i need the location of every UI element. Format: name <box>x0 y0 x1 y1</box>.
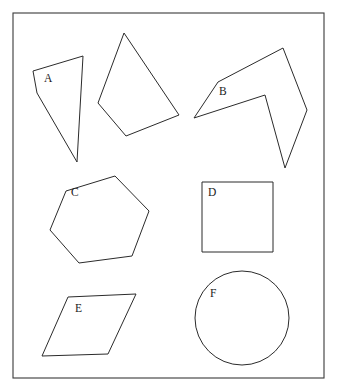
outer-border <box>13 13 324 378</box>
figure-container: A B C D E F <box>0 0 338 392</box>
shape-label-d: D <box>208 186 216 198</box>
shape-label-c: C <box>71 186 79 198</box>
shapes-figure: A B C D E F <box>0 0 338 392</box>
shape-label-b: B <box>219 85 227 97</box>
shape-label-e: E <box>75 302 82 314</box>
shape-label-f: F <box>210 287 216 299</box>
shape-label-a: A <box>44 72 53 84</box>
